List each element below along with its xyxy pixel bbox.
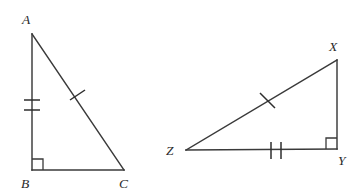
- vertex-label-a: A: [21, 12, 31, 27]
- right-angle-mark-y: [326, 138, 337, 149]
- segment-ac: [32, 34, 124, 170]
- vertex-label-z: Z: [166, 143, 174, 158]
- tick-ac-1: [70, 90, 85, 100]
- vertex-label-c: C: [119, 176, 129, 191]
- geometry-diagram-svg: A B C X Y Z: [0, 0, 360, 194]
- tick-marks-zy: [271, 142, 281, 159]
- vertex-label-y: Y: [338, 153, 347, 168]
- geometry-figure-canvas: A B C X Y Z: [0, 0, 360, 194]
- vertex-label-b: B: [21, 176, 29, 191]
- segment-zy: [186, 149, 337, 150]
- tick-marks-zx: [260, 93, 275, 108]
- vertex-label-x: X: [328, 39, 338, 54]
- tick-marks-ac: [70, 90, 85, 100]
- right-angle-mark-b: [32, 159, 43, 170]
- tick-zx-1: [260, 93, 275, 108]
- segment-zx: [186, 60, 337, 150]
- triangle-abc: A B C: [21, 12, 129, 191]
- triangle-xyz: X Y Z: [166, 39, 347, 168]
